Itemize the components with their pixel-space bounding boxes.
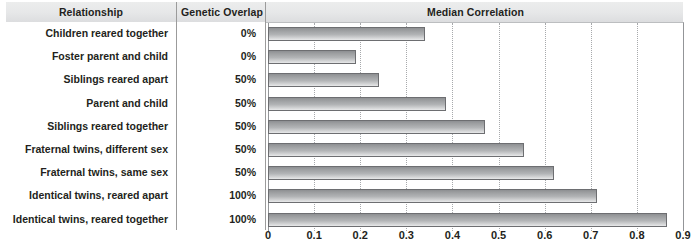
bar [268, 27, 425, 41]
x-axis: 00.10.20.30.40.50.60.70.80.9 [266, 229, 684, 247]
bar [268, 97, 446, 111]
bar [268, 120, 485, 134]
bar-row [268, 139, 683, 162]
relationship-label: Identical twins, reared together [0, 208, 172, 231]
relationship-label: Children reared together [0, 22, 172, 45]
bar-row [268, 69, 683, 92]
relationship-label-column: Children reared togetherFoster parent an… [0, 22, 172, 231]
genetic-overlap-value: 100% [178, 208, 260, 231]
bar [268, 73, 379, 87]
bar [268, 213, 667, 227]
x-axis-tick-label: 0.1 [306, 229, 321, 241]
genetic-overlap-value: 100% [178, 184, 260, 207]
column-header-median-correlation: Median Correlation [268, 2, 683, 22]
genetic-overlap-value: 50% [178, 92, 260, 115]
genetic-overlap-value: 50% [178, 138, 260, 161]
genetic-overlap-column: 0%0%50%50%50%50%50%100%100% [178, 22, 260, 231]
bar-row [268, 185, 683, 208]
x-axis-tick-label: 0.4 [445, 229, 460, 241]
column-header-relationship: Relationship [6, 2, 176, 22]
bar [268, 166, 554, 180]
x-axis-tick-label: 0.2 [353, 229, 368, 241]
genetic-overlap-value: 50% [178, 68, 260, 91]
bar-row [268, 93, 683, 116]
x-axis-tick-label: 0.8 [629, 229, 644, 241]
bar [268, 189, 597, 203]
bar [268, 143, 524, 157]
genetic-overlap-value: 0% [178, 45, 260, 68]
correlation-chart: Relationship Genetic Overlap Median Corr… [0, 0, 698, 248]
genetic-overlap-value: 50% [178, 115, 260, 138]
bar-row [268, 116, 683, 139]
column-divider-1 [176, 2, 177, 230]
bar [268, 50, 356, 64]
bar-row [268, 162, 683, 185]
bar-row [268, 23, 683, 46]
x-axis-tick-label: 0.5 [491, 229, 506, 241]
relationship-label: Siblings reared apart [0, 68, 172, 91]
x-axis-tick-label: 0.9 [675, 229, 690, 241]
bar-row [268, 46, 683, 69]
relationship-label: Fraternal twins, different sex [0, 138, 172, 161]
x-axis-tick-label: 0 [265, 229, 271, 241]
x-axis-tick-label: 0.3 [399, 229, 414, 241]
relationship-label: Identical twins, reared apart [0, 184, 172, 207]
x-axis-tick-label: 0.7 [583, 229, 598, 241]
column-header-genetic-overlap: Genetic Overlap [180, 2, 264, 22]
genetic-overlap-value: 50% [178, 161, 260, 184]
relationship-label: Siblings reared together [0, 115, 172, 138]
genetic-overlap-value: 0% [178, 22, 260, 45]
plot-area [266, 22, 684, 231]
x-axis-tick-label: 0.6 [537, 229, 552, 241]
relationship-label: Parent and child [0, 92, 172, 115]
relationship-label: Fraternal twins, same sex [0, 161, 172, 184]
bar-series [268, 23, 683, 231]
relationship-label: Foster parent and child [0, 45, 172, 68]
